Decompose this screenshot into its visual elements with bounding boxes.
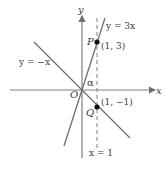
point-p-label: P <box>86 36 94 47</box>
point-q-label: Q <box>86 107 94 118</box>
angle-alpha-label: α <box>87 77 94 88</box>
coordinate-diagram: y x O y = 3x y = −x x = 1 P (1, 3) Q (1,… <box>0 0 166 170</box>
line-x1-label: x = 1 <box>89 148 113 158</box>
line-neg-x-label: y = −x <box>18 57 50 67</box>
point-p-coords: (1, 3) <box>101 41 125 51</box>
point-q-coords: (1, −1) <box>101 97 133 107</box>
point-p <box>94 39 99 44</box>
origin-label: O <box>70 89 78 100</box>
y-axis-label: y <box>77 4 84 15</box>
line-3x-label: y = 3x <box>105 21 135 31</box>
x-axis-label: x <box>156 85 162 96</box>
line-y-equals-3x <box>64 18 105 146</box>
point-q <box>94 104 99 109</box>
